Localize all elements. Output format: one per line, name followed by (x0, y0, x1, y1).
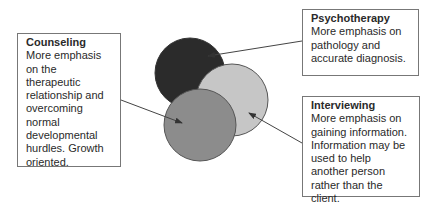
counseling-box: Counseling More emphasis on the therapeu… (17, 33, 121, 167)
counseling-circle (164, 89, 236, 161)
psychotherapy-box: Psychotherapy More emphasis on pathology… (302, 9, 419, 76)
interviewing-connector-arrow (249, 113, 302, 143)
psychotherapy-title: Psychotherapy (311, 12, 410, 25)
counseling-description: More emphasis on the therapeutic relatio… (26, 49, 112, 169)
counseling-title: Counseling (26, 36, 112, 49)
psychotherapy-description: More emphasis on pathology and accurate … (311, 25, 410, 65)
interviewing-title: Interviewing (311, 99, 411, 112)
interviewing-description: More emphasis on gaining information. In… (311, 112, 411, 204)
psychotherapy-connector-arrow (208, 41, 302, 56)
interviewing-box: Interviewing More emphasis on gaining in… (302, 96, 420, 197)
